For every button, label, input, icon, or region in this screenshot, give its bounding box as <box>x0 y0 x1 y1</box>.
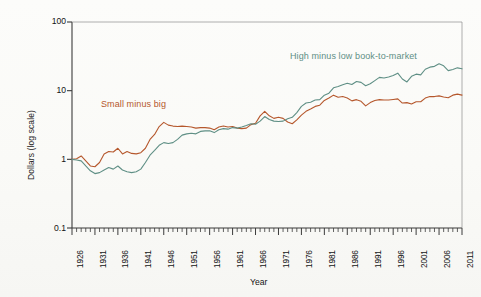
plot-area <box>0 0 481 297</box>
series-line-high-minus-low <box>72 64 462 174</box>
series-line-small-minus-big <box>72 94 462 167</box>
chart-figure: Dollars (log scale) Year 100 10 1 0.1 19… <box>0 0 481 297</box>
